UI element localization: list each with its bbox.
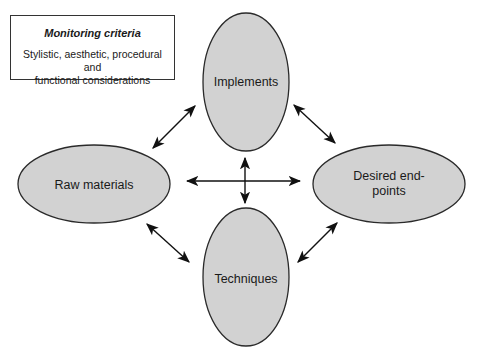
label-raw-materials: Raw materials	[54, 178, 133, 193]
label-desired-line-1: Desired end-	[353, 169, 425, 184]
arrow-raw-techniques	[147, 224, 189, 262]
arrow-implements-endpoints	[294, 105, 335, 143]
label-techniques: Techniques	[214, 272, 277, 287]
arrow-raw-implements	[153, 106, 195, 148]
label-desired-line-2: points	[353, 184, 425, 199]
label-implements: Implements	[214, 75, 279, 90]
label-desired-end-points: Desired end- points	[353, 169, 425, 199]
arrow-techniques-endpoints	[298, 223, 337, 262]
